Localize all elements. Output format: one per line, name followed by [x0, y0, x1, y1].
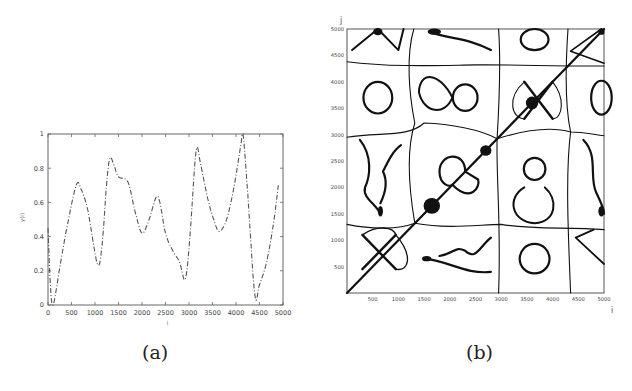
chart-b-ytick-label: 1500	[331, 211, 344, 217]
chart-b-xtick-label: 4000	[546, 296, 559, 302]
chart-b-xtick-label: 2500	[469, 296, 482, 302]
chart-b-ytick-label: 2500	[331, 158, 344, 164]
caption-a: (a)	[142, 341, 168, 363]
chart-a-xtick-label: 5000	[275, 309, 292, 317]
chart-b-xtick-label: 500	[368, 296, 378, 302]
chart-a-xtick-label: 500	[65, 309, 77, 317]
chart-b-ytick-label: 3000	[331, 132, 344, 138]
chart-a-ytick-label: 0.2	[34, 267, 44, 275]
chart-a-frame	[48, 134, 283, 305]
chart-a-ytick-label: 0.4	[34, 233, 44, 241]
chart-b-xtick-label: 1500	[417, 296, 430, 302]
chart-b-ytick-label: 2000	[331, 184, 344, 190]
caption-b: (b)	[466, 341, 493, 363]
chart-b-ytick-label: 500	[334, 264, 344, 270]
chart-a-xtick-label: 2000	[134, 309, 151, 317]
chart-a-xtick-label: 1000	[87, 309, 104, 317]
chart-a-xtick-label: 4500	[251, 309, 268, 317]
chart-a-xtick-label: 3500	[204, 309, 221, 317]
chart-b-xtick-label: 4500	[572, 296, 585, 302]
chart-b-xtick-label: 2000	[443, 296, 456, 302]
chart-b-ytick-label: 5000	[331, 26, 344, 32]
chart-b-xtick-label: 3000	[495, 296, 508, 302]
chart-a-ytick-label: 0.8	[34, 165, 44, 173]
chart-b-ytick-label: 1000	[331, 237, 344, 243]
chart-a-line	[48, 134, 278, 305]
chart-b-ytick-label: 4500	[331, 52, 344, 58]
chart-a-xlabel: i	[167, 320, 169, 326]
chart-b-recurrence-pattern	[347, 28, 612, 293]
chart-a-xtick-label: 0	[46, 309, 50, 317]
chart-a-ytick-label: 0.6	[34, 199, 44, 207]
figure: 0500100015002000250030003500400045005000…	[0, 0, 632, 391]
chart-b-xtick-label: 1000	[392, 296, 405, 302]
chart-b-xtick-label: 5000	[597, 296, 610, 302]
chart-a-ytick-label: 1	[40, 130, 44, 138]
chart-a-xtick-label: 2500	[157, 309, 174, 317]
chart-b-ytick-label: 4000	[331, 79, 344, 85]
chart-a-xtick-label: 4000	[228, 309, 245, 317]
chart-b-xtick-label: 3500	[520, 296, 533, 302]
chart-a-xtick-label: 1500	[110, 309, 127, 317]
chart-b-ylabel: j	[339, 16, 342, 25]
chart-a-ytick-label: 0	[40, 301, 44, 309]
chart-a: 0500100015002000250030003500400045005000…	[0, 0, 632, 391]
chart-a-ylabel: y(i)	[19, 213, 26, 222]
chart-a-xtick-label: 3000	[181, 309, 198, 317]
chart-b-ytick-label: 3500	[331, 105, 344, 111]
chart-b-xlabel: i	[611, 306, 613, 315]
